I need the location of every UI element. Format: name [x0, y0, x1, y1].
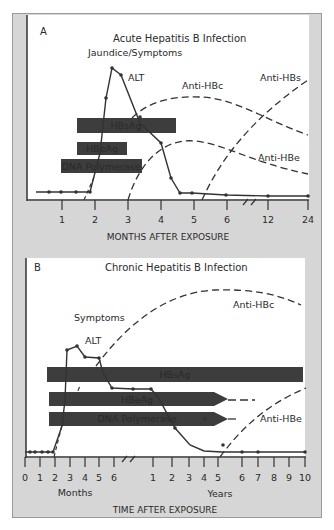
panel-a-anti-hbs-label: Anti-HBs	[260, 72, 301, 83]
panel-a-letter: A	[40, 26, 47, 37]
alt-point	[47, 190, 51, 194]
alt-point	[173, 426, 177, 430]
panel-b-letter: B	[34, 262, 41, 273]
panel-a-hbeag-label: HBeAg	[86, 143, 118, 154]
alt-point	[306, 194, 310, 198]
alt-point	[159, 141, 163, 145]
panel-b-alt-label: ALT	[85, 335, 101, 346]
panel-a-anti-hbc-label: Anti-HBc	[182, 80, 223, 91]
panel-a-symptoms-label: Jaundice/Symptoms	[87, 47, 182, 58]
panel-b-month-tick-label: 3	[67, 472, 73, 483]
panel-b-anti-hbc-label: Anti-HBc	[233, 299, 274, 310]
panel-b-dna-polymerase-label: DNA Polymerase	[97, 413, 176, 424]
alt-point	[110, 66, 114, 70]
alt-point	[131, 387, 135, 391]
panel-b-month-tick-label: 0	[22, 472, 28, 483]
alt-point	[119, 73, 123, 77]
panel-b-year-tick-label: 10	[299, 472, 311, 483]
alt-point	[97, 356, 101, 360]
alt-point	[40, 450, 44, 454]
alt-point	[138, 115, 142, 119]
panel-b-month-tick-label: 4	[82, 472, 88, 483]
panel-b-month-tick-label: 2	[52, 472, 58, 483]
alt-point	[190, 191, 194, 195]
panel-b-year-tick-label: 9	[286, 472, 292, 483]
panel-a-x-axis-label: MONTHS AFTER EXPOSURE	[107, 232, 230, 242]
panel-b-month-tick-label: 5	[96, 472, 102, 483]
panel-a: A Acute Hepatitis B Infection Jaundice/S…	[27, 15, 314, 242]
panel-b-year-tick-label: 5	[215, 472, 221, 483]
panel-b-year-tick-label: 1	[150, 472, 156, 483]
panel-a-alt-label: ALT	[128, 72, 144, 83]
alt-point	[221, 443, 225, 447]
panel-b-symptoms-label: Symptoms	[74, 312, 125, 323]
panel-a-tick-label: 12	[262, 214, 274, 225]
panel-a-tick-label: 2	[92, 214, 98, 225]
panel-b-year-tick-label: 6	[239, 472, 245, 483]
alt-point	[65, 348, 69, 352]
panel-b-month-tick-label: 1	[37, 472, 43, 483]
alt-point	[266, 194, 270, 198]
panel-b-hbsag-label: HBsAg	[159, 369, 190, 380]
alt-point	[169, 176, 173, 180]
alt-point	[240, 450, 244, 454]
panel-b-year-tick-label: 8	[271, 472, 277, 483]
panel-b-months-label: Months	[58, 487, 93, 498]
alt-point	[203, 417, 207, 421]
hepatitis-b-diagram: A Acute Hepatitis B Infection Jaundice/S…	[0, 0, 334, 530]
panel-b-month-tick-label: 6	[111, 472, 117, 483]
alt-point	[256, 450, 260, 454]
alt-point	[149, 387, 153, 391]
alt-point	[303, 450, 307, 454]
panel-a-tick-label: 5	[191, 214, 197, 225]
panel-a-anti-hbe-label: Anti-HBe	[258, 152, 300, 163]
alt-point	[178, 191, 182, 195]
panel-b-year-tick-label: 3	[186, 472, 192, 483]
panel-b-background	[26, 258, 305, 458]
alt-point	[33, 450, 37, 454]
panel-a-tick-label: 24	[302, 214, 314, 225]
panel-a-title: Acute Hepatitis B Infection	[113, 33, 246, 44]
alt-point	[83, 355, 87, 359]
panel-a-tick-label: 6	[224, 214, 230, 225]
alt-point	[110, 386, 114, 390]
panel-a-hbsag-label: HBsAg	[110, 120, 141, 131]
panel-b-hbeag-label: HBeAg	[121, 394, 153, 405]
panel-b: B Chronic Hepatitis B Infection Symptoms…	[22, 258, 311, 515]
panel-a-tick-label: 3	[125, 214, 131, 225]
panel-b-anti-hbe-label: Anti-HBe	[260, 413, 302, 424]
panel-b-year-tick-label: 7	[255, 472, 261, 483]
panel-b-year-tick-label: 4	[201, 472, 207, 483]
alt-point	[59, 190, 63, 194]
panel-a-tick-label: 1	[59, 214, 65, 225]
alt-point	[224, 193, 228, 197]
alt-point	[88, 190, 92, 194]
panel-b-year-tick-label: 2	[169, 472, 175, 483]
alt-point	[75, 344, 79, 348]
alt-point	[74, 190, 78, 194]
panel-b-x-axis-label: TIME AFTER EXPOSURE	[112, 505, 218, 515]
panel-b-years-label: Years	[206, 488, 232, 499]
panel-b-title: Chronic Hepatitis B Infection	[105, 262, 248, 273]
alt-point	[28, 450, 32, 454]
panel-a-dna-polymerase-label: DNA Polymerase	[61, 161, 140, 172]
alt-point	[104, 96, 108, 100]
alt-point	[51, 450, 55, 454]
alt-point	[46, 450, 50, 454]
panel-a-tick-label: 4	[158, 214, 164, 225]
